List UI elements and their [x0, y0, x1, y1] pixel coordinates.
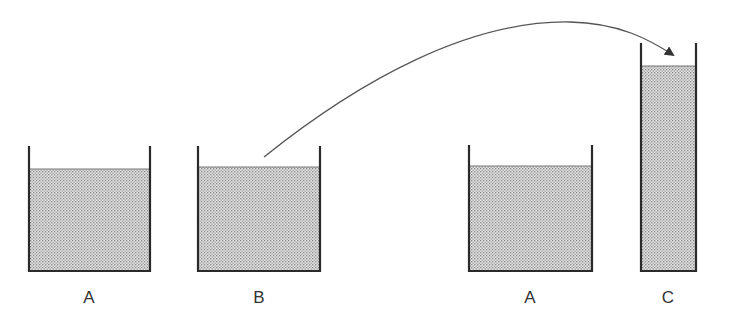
- label-a: A: [83, 288, 95, 307]
- container-a-right: A: [469, 145, 592, 307]
- liquid: [469, 166, 592, 271]
- container-b: B: [198, 146, 320, 307]
- label-c: C: [662, 288, 674, 307]
- container-c: C: [641, 43, 696, 307]
- pour-arrow: [264, 22, 673, 157]
- liquid: [641, 66, 696, 271]
- label-b: B: [253, 288, 264, 307]
- label-a: A: [524, 288, 536, 307]
- liquid: [29, 169, 150, 271]
- container-a-left: A: [29, 146, 150, 307]
- liquid: [198, 167, 320, 271]
- conservation-diagram: A B A C: [0, 0, 729, 315]
